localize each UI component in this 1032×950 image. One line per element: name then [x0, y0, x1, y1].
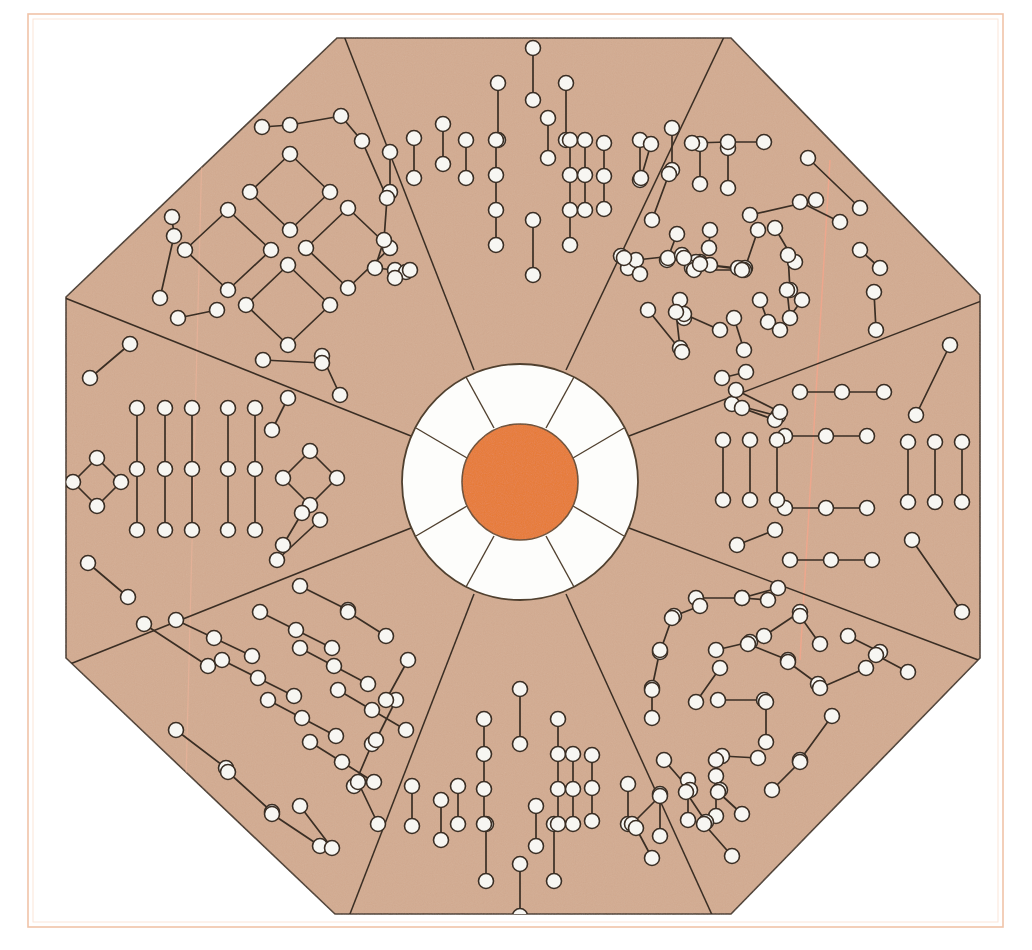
network-node: [780, 283, 795, 298]
network-node: [644, 137, 659, 152]
network-node: [281, 258, 296, 273]
central-hub: [402, 364, 638, 600]
network-node: [313, 513, 328, 528]
network-node: [585, 814, 600, 829]
network-node: [355, 134, 370, 149]
network-node: [901, 495, 916, 510]
network-node: [513, 682, 528, 697]
network-node: [677, 251, 692, 266]
network-node: [563, 238, 578, 253]
network-node: [578, 133, 593, 148]
network-node: [325, 641, 340, 656]
network-node: [597, 136, 612, 151]
network-node: [185, 462, 200, 477]
hub-core: [462, 424, 578, 540]
network-node: [451, 817, 466, 832]
network-node: [735, 263, 750, 278]
network-node: [905, 533, 920, 548]
network-node: [739, 365, 754, 380]
network-node: [513, 737, 528, 752]
network-node: [819, 429, 834, 444]
network-node: [248, 401, 263, 416]
network-node: [276, 471, 291, 486]
network-node: [813, 681, 828, 696]
network-node: [751, 751, 766, 766]
network-node: [743, 433, 758, 448]
network-node: [551, 782, 566, 797]
network-node: [633, 267, 648, 282]
network-node: [451, 779, 466, 794]
network-node: [331, 683, 346, 698]
network-node: [365, 703, 380, 718]
network-node: [489, 168, 504, 183]
network-node: [369, 733, 384, 748]
network-node: [813, 637, 828, 652]
network-node: [793, 755, 808, 770]
octagon-network-figure: [0, 0, 1032, 950]
network-node: [479, 874, 494, 889]
network-node: [361, 677, 376, 692]
network-node: [403, 263, 418, 278]
network-node: [330, 471, 345, 486]
network-node: [341, 201, 356, 216]
network-node: [513, 857, 528, 872]
network-node: [860, 429, 875, 444]
network-node: [819, 501, 834, 516]
network-node: [781, 248, 796, 263]
network-node: [641, 303, 656, 318]
network-node: [669, 305, 684, 320]
network-node: [768, 523, 783, 538]
network-node: [477, 747, 492, 762]
network-node: [158, 462, 173, 477]
network-node: [388, 271, 403, 286]
network-node: [526, 213, 541, 228]
network-node: [436, 157, 451, 172]
network-node: [221, 203, 236, 218]
network-node: [303, 444, 318, 459]
network-node: [265, 423, 280, 438]
network-node: [256, 353, 271, 368]
network-node: [653, 829, 668, 844]
network-node: [675, 345, 690, 360]
network-node: [221, 283, 236, 298]
network-node: [114, 475, 129, 490]
network-node: [770, 493, 785, 508]
network-node: [171, 311, 186, 326]
network-node: [751, 223, 766, 238]
network-node: [566, 817, 581, 832]
network-node: [185, 523, 200, 538]
network-node: [770, 433, 785, 448]
network-node: [716, 493, 731, 508]
network-node: [873, 261, 888, 276]
network-node: [585, 748, 600, 763]
network-node: [563, 133, 578, 148]
network-node: [377, 233, 392, 248]
network-node: [283, 118, 298, 133]
network-node: [703, 223, 718, 238]
network-node: [243, 185, 258, 200]
network-node: [653, 643, 668, 658]
network-node: [670, 227, 685, 242]
network-node: [867, 285, 882, 300]
network-node: [303, 735, 318, 750]
network-node: [283, 223, 298, 238]
network-node: [711, 785, 726, 800]
network-node: [901, 435, 916, 450]
network-node: [693, 257, 708, 272]
network-node: [773, 405, 788, 420]
network-node: [865, 553, 880, 568]
network-node: [407, 171, 422, 186]
network-node: [551, 712, 566, 727]
network-node: [289, 623, 304, 638]
network-node: [713, 661, 728, 676]
network-node: [801, 151, 816, 166]
network-node: [477, 712, 492, 727]
network-node: [860, 501, 875, 516]
network-node: [877, 385, 892, 400]
network-node: [158, 523, 173, 538]
network-node: [693, 177, 708, 192]
network-node: [178, 243, 193, 258]
network-node: [928, 495, 943, 510]
network-node: [645, 711, 660, 726]
network-node: [737, 343, 752, 358]
